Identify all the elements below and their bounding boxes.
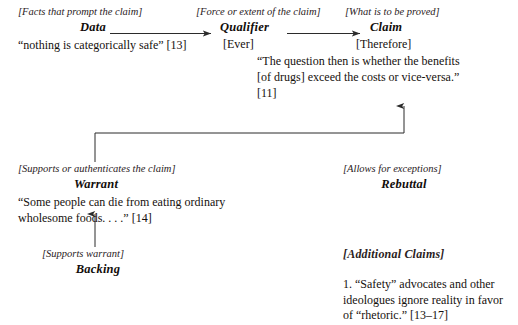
claim-role-label: [What is to be proved]: [345, 6, 517, 18]
qualifier-connective: [Ever]: [223, 37, 356, 51]
backing-term: Backing: [42, 262, 154, 277]
rebuttal-term: Rebuttal: [343, 177, 465, 192]
data-role-label: [Facts that prompt the claim]: [18, 6, 208, 18]
node-warrant: [Supports or authenticates the claim] Wa…: [18, 163, 238, 227]
rebuttal-role-label: [Allows for exceptions]: [343, 163, 503, 175]
toulmin-diagram: [Facts that prompt the claim] Data “noth…: [0, 0, 518, 325]
claim-connective: [Therefore]: [356, 37, 517, 51]
node-rebuttal: [Allows for exceptions] Rebuttal: [343, 163, 503, 192]
node-data: [Facts that prompt the claim] Data “noth…: [18, 6, 208, 54]
node-qualifier: [Force or extent of the claim] Qualifier…: [196, 6, 356, 51]
claim-body-text: “The question then is whether the benefi…: [257, 54, 467, 101]
qualifier-term: Qualifier: [220, 20, 356, 35]
warrant-body-text: “Some people can die from eating ordinar…: [18, 195, 234, 227]
data-term: Data: [18, 20, 168, 35]
warrant-term: Warrant: [18, 177, 174, 192]
claim-term: Claim: [370, 20, 517, 35]
backing-role-label: [Supports warrant]: [42, 248, 192, 260]
node-claim: [What is to be proved] Claim [Therefore]…: [345, 6, 517, 102]
additional-claims-heading: [Additional Claims]: [343, 248, 511, 262]
additional-claims-body-text: 1. “Safety” advocates and other ideologu…: [343, 277, 511, 324]
warrant-role-label: [Supports or authenticates the claim]: [18, 163, 238, 175]
connector-warrant-to-claim: [95, 106, 404, 162]
node-backing: [Supports warrant] Backing: [42, 248, 192, 277]
data-body-text: “nothing is categorically safe” [13]: [18, 38, 193, 54]
qualifier-role-label: [Force or extent of the claim]: [196, 6, 356, 18]
node-additional-claims: [Additional Claims] 1. “Safety” advocate…: [343, 248, 511, 324]
